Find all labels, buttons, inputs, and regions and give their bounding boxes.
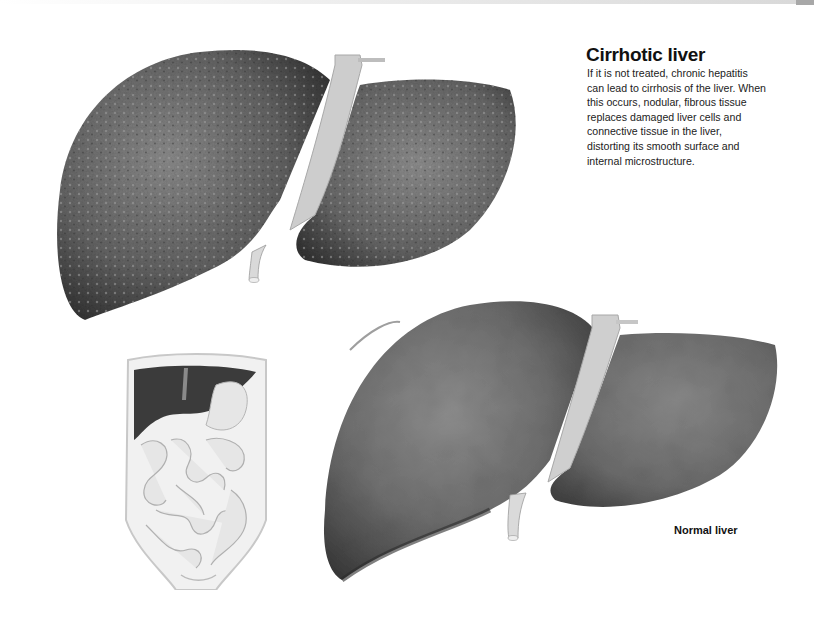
normal-liver-caption: Normal liver <box>674 524 738 536</box>
cirrhotic-liver-title: Cirrhotic liver <box>586 44 705 66</box>
abdomen-torso-illustration <box>116 350 276 590</box>
cirrhotic-liver-description: If it is not treated, chronic hepatitis … <box>587 66 767 168</box>
page-tab-marker <box>796 0 814 5</box>
page-header-bar <box>0 0 814 4</box>
normal-liver-illustration <box>320 290 814 590</box>
